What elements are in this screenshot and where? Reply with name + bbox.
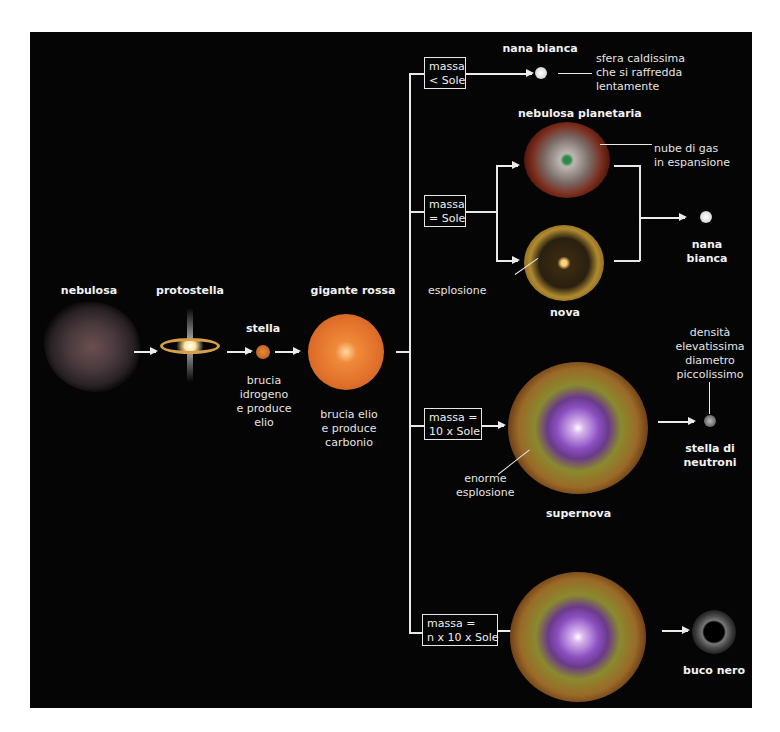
- neutron-star-image: [704, 415, 716, 427]
- supernova-image-1: [508, 362, 648, 494]
- white-dwarf-image-2: [700, 211, 712, 223]
- condition-line: < Sole: [429, 74, 461, 88]
- pointer-white-dwarf-1: [558, 73, 592, 74]
- label-line: nana: [682, 238, 732, 252]
- arrow-to-black-hole: [662, 630, 688, 632]
- condition-line: massa: [429, 60, 461, 74]
- condition-line: massa =: [429, 411, 477, 425]
- desc-line: e produce: [236, 402, 292, 416]
- red-giant-image: [308, 314, 384, 390]
- arrow-stella-gigante: [275, 351, 299, 353]
- desc-line: e produce: [314, 422, 384, 436]
- label-white-dwarf-1: nana bianca: [500, 42, 580, 56]
- desc-line: elio: [236, 416, 292, 430]
- label-supernova-1: supernova: [546, 507, 610, 521]
- desc-line: brucia: [236, 374, 292, 388]
- condition-line: massa =: [427, 617, 493, 631]
- stella-description: brucia idrogeno e produce elio: [236, 374, 292, 430]
- annotation-line: nube di gas: [654, 142, 730, 156]
- condition-line: massa: [429, 198, 461, 212]
- label-line: bianca: [682, 252, 732, 266]
- desc-line: carbonio: [314, 436, 384, 450]
- branch2-connector: [409, 211, 425, 213]
- condition-line: = Sole: [429, 212, 461, 226]
- arrow-protostella-stella: [227, 351, 251, 353]
- desc-line: piccolissimo: [670, 368, 750, 382]
- desc-line: idrogeno: [236, 388, 292, 402]
- desc-line: sfera caldissima: [596, 52, 685, 66]
- nebula-image: [44, 302, 140, 392]
- label-line: stella di: [678, 442, 742, 456]
- connector-gigante-trunk: [396, 351, 410, 353]
- arrow-to-nova: [496, 260, 518, 262]
- desc-line: che si raffredda: [596, 66, 685, 80]
- label-nebulosa: nebulosa: [54, 284, 124, 298]
- arrow-to-planetary-nebula: [496, 165, 518, 167]
- label-line: neutroni: [678, 456, 742, 470]
- star-image: [256, 345, 270, 359]
- condition-line: n x 10 x Sole: [427, 631, 493, 645]
- condition-box-nx10x-sun: massa = n x 10 x Sole: [422, 614, 498, 646]
- arrow-to-white-dwarf-1: [466, 73, 532, 75]
- arrow-to-white-dwarf-2: [639, 217, 685, 219]
- nova-image: [524, 225, 604, 301]
- label-neutron-star: stella di neutroni: [678, 442, 742, 470]
- label-white-dwarf-2: nana bianca: [682, 238, 732, 266]
- arrow-to-supernova-1: [482, 425, 504, 427]
- black-hole-image: [692, 610, 736, 654]
- label-planetary-nebula: nebulosa planetaria: [518, 107, 638, 121]
- branch3-connector: [409, 425, 425, 427]
- condition-box-less-than-sun: massa < Sole: [424, 57, 466, 89]
- label-nova: nova: [550, 306, 580, 320]
- annotation-line: esplosione: [456, 486, 515, 500]
- desc-line: brucia elio: [314, 408, 384, 422]
- neutron-star-description: densità elevatissima diametro piccolissi…: [670, 326, 750, 382]
- desc-line: elevatissima: [670, 340, 750, 354]
- merge-v: [639, 165, 641, 261]
- label-black-hole: buco nero: [682, 664, 746, 678]
- supernova-annotation: enorme esplosione: [456, 472, 515, 500]
- branch2-split-v: [496, 165, 498, 261]
- arrow-nebulosa-protostella: [134, 351, 156, 353]
- label-protostella: protostella: [152, 284, 228, 298]
- annotation-line: enorme: [456, 472, 515, 486]
- annotation-line: in espansione: [654, 156, 730, 170]
- pointer-neutron-star: [709, 382, 710, 414]
- label-gigante-rossa: gigante rossa: [308, 284, 398, 298]
- label-stella: stella: [238, 322, 288, 336]
- condition-box-equal-sun: massa = Sole: [424, 195, 466, 227]
- white-dwarf-image-1: [535, 67, 547, 79]
- diagram-panel: nebulosa protostella stella gigante ross…: [30, 32, 752, 708]
- condition-box-10x-sun: massa = 10 x Sole: [424, 408, 482, 440]
- nova-annotation: esplosione: [428, 284, 487, 298]
- gas-cloud-annotation: nube di gas in espansione: [654, 142, 730, 170]
- desc-line: lentamente: [596, 80, 685, 94]
- white-dwarf-description: sfera caldissima che si raffredda lentam…: [596, 52, 685, 94]
- pointer-gas-cloud: [600, 144, 652, 145]
- arrow-to-neutron-star: [658, 421, 694, 423]
- condition-line: 10 x Sole: [429, 425, 477, 439]
- planetary-nebula-image: [524, 122, 610, 198]
- protostar-disk: [160, 338, 220, 354]
- merge-top: [614, 165, 640, 167]
- branch-trunk: [409, 73, 411, 633]
- desc-line: diametro: [670, 354, 750, 368]
- desc-line: densità: [670, 326, 750, 340]
- merge-bottom: [614, 260, 640, 262]
- branch2-split-h: [466, 211, 497, 213]
- supernova-image-2: [510, 572, 646, 702]
- branch1-connector: [409, 73, 425, 75]
- gigante-description: brucia elio e produce carbonio: [314, 408, 384, 450]
